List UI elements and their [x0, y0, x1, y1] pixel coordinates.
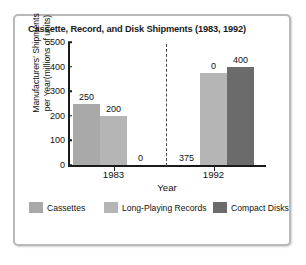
legend-label: Compact Disks	[231, 203, 289, 213]
legend-item-compact-disks[interactable]: Compact Disks	[213, 202, 289, 213]
x-axis-tick-mark	[214, 167, 216, 171]
y-axis-tick-label: 300	[39, 86, 65, 96]
bar-compact-disks-1992	[227, 67, 254, 165]
legend-label: Cassettes	[47, 203, 85, 213]
y-axis-tick-label: 500	[39, 37, 65, 47]
bar-long-playing-records-1992	[200, 73, 227, 165]
group-divider-line	[166, 44, 167, 166]
legend-swatch	[29, 202, 43, 213]
bar-value-label: 250	[69, 92, 104, 102]
legend-label: Long-Playing Records	[122, 203, 207, 213]
legend-swatch	[104, 202, 118, 213]
y-axis-tick-label: 0	[39, 160, 65, 170]
y-axis-tick-label: 400	[39, 62, 65, 72]
bar-value-label: 200	[96, 104, 131, 114]
y-axis-tick-label: 100	[39, 135, 65, 145]
x-axis-title: Year	[68, 182, 266, 193]
legend-swatch	[213, 202, 227, 213]
bar-value-label: 400	[223, 55, 258, 65]
chart-legend: CassettesLong-Playing RecordsCompact Dis…	[29, 202, 279, 218]
legend-item-cassettes[interactable]: Cassettes	[29, 202, 85, 213]
chart-title: Cassette, Record, and Disk Shipments (19…	[28, 24, 283, 34]
bar-value-label: 0	[123, 153, 158, 163]
bar-value-label: 375	[169, 153, 204, 163]
chart-frame: Cassette, Record, and Disk Shipments (19…	[13, 14, 291, 246]
x-axis-line	[68, 165, 266, 167]
legend-item-long-playing-records[interactable]: Long-Playing Records	[104, 202, 207, 213]
y-axis-tick-labels: 5004003002001000	[35, 42, 65, 165]
y-axis-tick-label: 200	[39, 111, 65, 121]
x-axis-tick-mark	[114, 167, 116, 171]
